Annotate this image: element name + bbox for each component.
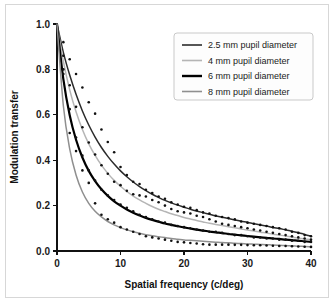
series-point-1 xyxy=(75,106,78,109)
series-point-3 xyxy=(75,150,78,153)
series-point-1 xyxy=(227,224,230,227)
series-point-1 xyxy=(94,153,97,156)
y-tick-label: 0.0 xyxy=(36,246,50,257)
series-point-1 xyxy=(310,238,313,241)
series-point-1 xyxy=(100,164,103,167)
series-point-3 xyxy=(132,230,135,233)
series-point-0 xyxy=(62,41,65,44)
series-point-1 xyxy=(208,218,211,221)
series-point-2 xyxy=(265,237,268,240)
y-tick-label: 1.0 xyxy=(36,19,50,30)
series-point-3 xyxy=(189,242,192,245)
series-point-0 xyxy=(157,195,160,198)
series-point-3 xyxy=(284,245,287,248)
series-point-1 xyxy=(195,215,198,218)
series-point-0 xyxy=(195,209,198,212)
series-point-2 xyxy=(170,224,173,227)
series-point-0 xyxy=(100,128,103,131)
y-tick-label: 0.6 xyxy=(36,109,50,120)
series-point-3 xyxy=(227,243,230,246)
series-point-2 xyxy=(272,237,275,240)
series-point-0 xyxy=(170,201,173,204)
series-point-2 xyxy=(132,210,135,213)
series-point-2 xyxy=(208,230,211,233)
series-point-2 xyxy=(246,235,249,238)
series-point-1 xyxy=(81,126,84,129)
series-point-0 xyxy=(68,58,71,61)
series-point-0 xyxy=(87,101,90,104)
legend-label-3: 8 mm pupil diameter xyxy=(208,87,290,97)
series-point-2 xyxy=(240,234,243,237)
series-point-0 xyxy=(202,211,205,214)
series-point-0 xyxy=(94,112,97,115)
series-point-3 xyxy=(170,239,173,242)
series-point-2 xyxy=(87,169,90,172)
series-point-3 xyxy=(272,244,275,247)
series-point-3 xyxy=(208,243,211,246)
series-point-0 xyxy=(240,220,243,223)
series-point-1 xyxy=(126,190,129,193)
series-point-0 xyxy=(138,183,141,186)
series-point-1 xyxy=(240,226,243,229)
series-point-2 xyxy=(253,236,256,239)
series-point-0 xyxy=(189,207,192,210)
series-point-0 xyxy=(259,224,262,227)
x-axis-ticks: 010203040 xyxy=(54,251,317,269)
series-point-3 xyxy=(202,243,205,246)
series-point-0 xyxy=(107,141,110,144)
x-tick-label: 10 xyxy=(115,258,127,269)
series-point-0 xyxy=(278,227,281,230)
x-tick-label: 0 xyxy=(54,258,60,269)
series-point-1 xyxy=(189,212,192,215)
series-point-0 xyxy=(246,221,249,224)
chart-legend[interactable]: 2.5 mm pupil diameter4 mm pupil diameter… xyxy=(174,33,313,100)
series-point-1 xyxy=(221,222,224,225)
series-point-1 xyxy=(164,204,167,207)
series-point-2 xyxy=(107,194,110,197)
series-point-0 xyxy=(208,212,211,215)
series-point-2 xyxy=(94,179,97,182)
series-point-2 xyxy=(62,68,65,71)
series-point-2 xyxy=(227,233,230,236)
series-point-3 xyxy=(291,245,294,248)
series-point-3 xyxy=(126,228,129,231)
y-tick-label: 0.8 xyxy=(36,64,50,75)
x-tick-label: 20 xyxy=(178,258,190,269)
series-point-1 xyxy=(214,220,217,223)
series-point-1 xyxy=(297,236,300,239)
series-point-0 xyxy=(132,180,135,183)
series-point-0 xyxy=(81,86,84,89)
series-point-2 xyxy=(297,239,300,242)
series-point-3 xyxy=(145,235,148,238)
series-point-3 xyxy=(107,218,110,221)
series-point-2 xyxy=(202,229,205,232)
series-point-0 xyxy=(176,203,179,206)
series-point-1 xyxy=(284,234,287,237)
series-point-2 xyxy=(126,207,129,210)
series-point-2 xyxy=(81,154,84,157)
series-point-3 xyxy=(176,241,179,244)
series-point-2 xyxy=(214,230,217,233)
series-point-2 xyxy=(138,213,141,216)
series-point-0 xyxy=(164,197,167,200)
series-point-2 xyxy=(303,241,306,244)
series-point-3 xyxy=(119,226,122,229)
series-point-0 xyxy=(253,222,256,225)
series-point-3 xyxy=(164,238,167,241)
series-point-2 xyxy=(151,218,154,221)
legend-label-1: 4 mm pupil diameter xyxy=(208,56,290,66)
series-point-3 xyxy=(183,241,186,244)
series-point-0 xyxy=(119,166,122,169)
series-point-0 xyxy=(75,73,78,76)
series-point-3 xyxy=(68,132,71,135)
series-point-0 xyxy=(126,174,129,177)
x-tick-label: 40 xyxy=(305,258,317,269)
series-point-0 xyxy=(303,234,306,237)
series-point-3 xyxy=(214,243,217,246)
series-point-1 xyxy=(145,195,148,198)
series-point-3 xyxy=(246,244,249,247)
series-point-1 xyxy=(265,230,268,233)
y-tick-label: 0.4 xyxy=(36,155,50,166)
series-point-2 xyxy=(113,199,116,202)
series-point-3 xyxy=(240,244,243,247)
